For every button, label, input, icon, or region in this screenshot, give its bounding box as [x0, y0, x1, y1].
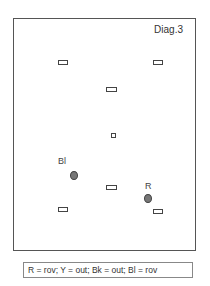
- square-marker: [111, 133, 116, 138]
- rect-marker: [153, 60, 163, 65]
- legend-text: R = rov; Y = out; Bk = out; Bl = rov: [28, 265, 157, 275]
- diagram-frame: Diag.3: [13, 18, 196, 251]
- rect-marker: [153, 209, 163, 214]
- legend-box: R = rov; Y = out; Bk = out; Bl = rov: [23, 262, 193, 278]
- diagram-title: Diag.3: [154, 24, 183, 35]
- rect-marker: [58, 60, 68, 65]
- rect-marker: [58, 207, 68, 212]
- point-label-bl: Bl: [58, 156, 66, 166]
- point-label-r: R: [145, 181, 152, 191]
- rect-marker: [106, 185, 117, 190]
- rect-marker: [106, 87, 117, 92]
- point-r-dot: [144, 194, 152, 203]
- point-bl-dot: [70, 171, 78, 180]
